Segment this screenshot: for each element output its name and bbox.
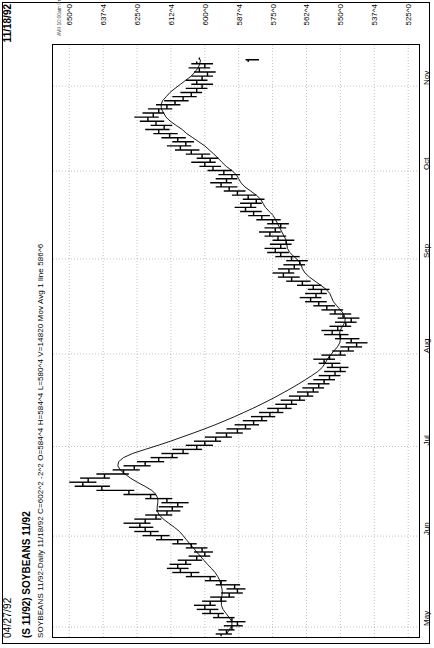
price-tick-label: 650^0 [65, 4, 74, 26]
quote-bar: SOYBEANS 11/92-Daily 11/18/92 C=602^2 -2… [36, 0, 50, 642]
ohlc-plot-svg [53, 45, 419, 637]
price-tick-label: 612^4 [166, 4, 175, 26]
ohlc-bars [69, 58, 367, 637]
end-date-label: 11/18/92 [2, 4, 13, 42]
title-bar: (S 11/92) SOYBEANS 11/92 [20, 0, 36, 642]
header-bar: 04/27/92 11/18/92 [0, 0, 20, 642]
price-tick-label: 625^0 [133, 4, 142, 26]
price-axis: 650^0637^4625^0612^4600^0587^4575^0562^4… [52, 2, 420, 42]
time-axis: MayJunJulAugSepOctNov [422, 44, 434, 638]
page-title: (S 11/92) SOYBEANS 11/92 [21, 511, 32, 638]
plot-area[interactable] [52, 44, 420, 638]
quote-line: SOYBEANS 11/92-Daily 11/18/92 C=602^2 -2… [36, 244, 45, 638]
moving-average-line [118, 60, 345, 634]
price-tick-label: 537^4 [370, 4, 379, 26]
month-tick-label: Sep [422, 244, 431, 258]
month-tick-label: Aug [422, 339, 431, 353]
chart-page: 04/27/92 11/18/92 (S 11/92) SOYBEANS 11/… [0, 0, 434, 648]
month-tick-label: Jul [422, 435, 431, 445]
month-tick-label: May [422, 611, 431, 626]
price-tick-label: 575^0 [268, 4, 277, 26]
rotated-chart-canvas: 04/27/92 11/18/92 (S 11/92) SOYBEANS 11/… [0, 0, 434, 642]
month-tick-label: Oct [422, 158, 431, 170]
price-tick-label: 600^0 [200, 4, 209, 26]
price-tick-label: 525^0 [404, 4, 413, 26]
price-tick-label: 550^0 [336, 4, 345, 26]
start-date-label: 04/27/92 [2, 597, 13, 638]
month-tick-label: Nov [422, 71, 431, 85]
price-tick-label: 562^4 [302, 4, 311, 26]
price-tick-label: 637^4 [99, 4, 108, 26]
price-tick-label: 587^4 [234, 4, 243, 26]
month-tick-label: Jun [422, 522, 431, 535]
credit-text: AVII 10:00am Printed using TradeStation … [56, 0, 62, 36]
